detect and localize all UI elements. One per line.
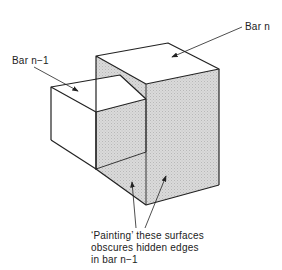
bar-n [96,43,219,205]
note-line-3: in bar n−1 [91,254,138,265]
note-line-2: obscures hidden edges [91,242,199,253]
bar-n-right-face [146,69,219,205]
label-bar-n-minus-1: Bar n−1 [12,55,49,66]
bar-n-arrow [172,27,242,57]
label-bar-n: Bar n [245,21,270,32]
note-line-1: ‘Painting’ these surfaces [91,230,204,241]
